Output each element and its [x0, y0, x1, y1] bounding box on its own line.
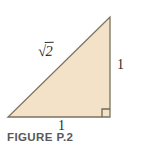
figure-container: √2 1 1 FIGURE P.2: [0, 0, 141, 147]
radicand-value: 2: [45, 42, 54, 59]
hypotenuse-label: √2: [38, 44, 54, 60]
right-triangle-shape: [8, 17, 110, 117]
figure-caption: FIGURE P.2: [7, 131, 73, 143]
vertical-side-label: 1: [117, 58, 124, 72]
